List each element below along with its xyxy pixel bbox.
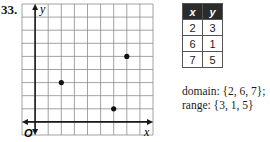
cell-y: 5: [203, 52, 223, 68]
coordinate-plane: y x O: [0, 0, 160, 142]
table-row: 6 1: [183, 36, 223, 52]
data-point: [59, 80, 64, 85]
data-point: [124, 54, 129, 59]
cell-x: 7: [183, 52, 203, 68]
xy-table: x y 2 3 6 1 7 5: [182, 3, 223, 68]
cell-y: 1: [203, 36, 223, 52]
y-axis-label: y: [39, 2, 46, 16]
domain-text: domain: {2, 6, 7};: [182, 84, 266, 98]
range-text: range: {3, 1, 5}: [182, 98, 266, 112]
x-axis-label: x: [143, 125, 150, 139]
table-row: 2 3: [183, 20, 223, 36]
header-y: y: [203, 4, 223, 20]
cell-x: 2: [183, 20, 203, 36]
header-x: x: [183, 4, 203, 20]
data-point: [111, 106, 116, 111]
cell-x: 6: [183, 36, 203, 52]
grid: [22, 4, 153, 135]
cell-y: 3: [203, 20, 223, 36]
table-row: 7 5: [183, 52, 223, 68]
table-header-row: x y: [183, 4, 223, 20]
domain-range-caption: domain: {2, 6, 7}; range: {3, 1, 5}: [182, 84, 266, 112]
origin-label: O: [24, 127, 33, 139]
